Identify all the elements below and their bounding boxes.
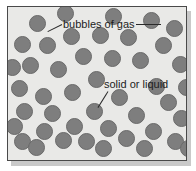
particle-circle [136,140,153,157]
particle-circle [7,118,23,135]
particle-circle [120,29,137,46]
particle-circle [118,130,135,147]
leader-line-bubbles-of-gas [48,24,62,32]
particle-circle [11,80,28,97]
particle-circle [88,71,105,88]
particle-circle [35,88,52,105]
particle-circle [7,59,21,76]
particle-circle [145,123,162,140]
particle-circle [155,37,172,54]
particle-circle [36,123,53,140]
particle-circle [172,56,188,73]
particle-circle [100,120,117,137]
particle-circle [39,37,56,54]
annotation-label-bubbles-of-gas: bubbles of gas [63,19,135,30]
particle-circle [173,110,188,127]
leader-line-bubbles-of-gas [136,24,161,25]
particle-circle [160,94,177,111]
particle-circle [44,105,61,122]
particle-circle [111,89,128,106]
leader-line-solid-or-liquid [98,91,109,108]
particle-circle [143,12,160,29]
particle-circle [55,132,72,149]
particle-circle [14,36,31,53]
particle-diagram-frame: bubbles of gassolid or liquid [7,6,187,161]
particle-circle [128,107,145,124]
diagram-page: bubbles of gassolid or liquid [0,0,196,171]
particle-circle [50,61,67,78]
particle-circle [63,28,80,45]
particle-circle [22,57,39,74]
particle-circle [28,139,45,156]
particle-circle [95,140,112,157]
particle-circle [132,52,149,69]
particle-circle [178,79,188,96]
particle-circle [64,84,81,101]
particle-circle [78,133,95,150]
particle-circle [29,15,46,32]
particle-circle [166,20,183,37]
annotation-label-solid-or-liquid: solid or liquid [104,79,168,90]
particle-circle [16,103,33,120]
particle-circle [66,118,83,135]
particle-circle [75,48,92,65]
particle-circle [104,50,121,67]
